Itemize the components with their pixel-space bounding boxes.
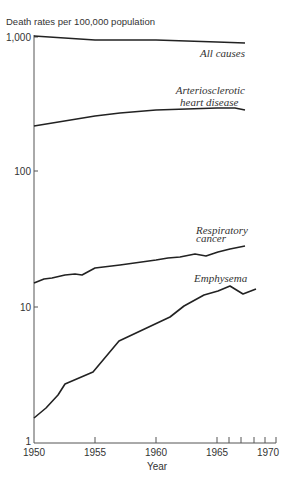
label-emphysema: Emphysema [193, 272, 248, 284]
x-tick-1970: 1970 [257, 447, 280, 458]
series-all-causes [34, 36, 245, 43]
x-tick-1960: 1960 [145, 447, 168, 458]
y-tick-100: 100 [14, 166, 31, 177]
label-arterio-2: heart disease [180, 96, 238, 108]
chart: Death rates per 100,000 population 1,000… [0, 0, 291, 494]
label-all-causes: All causes [199, 47, 245, 59]
series-emphysema [34, 286, 256, 418]
x-tick-1955: 1955 [84, 447, 107, 458]
x-tick-1950: 1950 [23, 447, 46, 458]
x-axis-label: Year [147, 461, 168, 472]
y-axis-label: Death rates per 100,000 population [6, 16, 155, 27]
label-resp-2: cancer [196, 232, 227, 244]
y-tick-1000: 1,000 [6, 32, 31, 43]
y-tick-10: 10 [20, 302, 32, 313]
series-arteriosclerotic [34, 108, 245, 126]
y-tick-1: 1 [25, 436, 31, 447]
x-tick-1965: 1965 [206, 447, 229, 458]
label-arterio-1: Arteriosclerotic [175, 84, 245, 96]
